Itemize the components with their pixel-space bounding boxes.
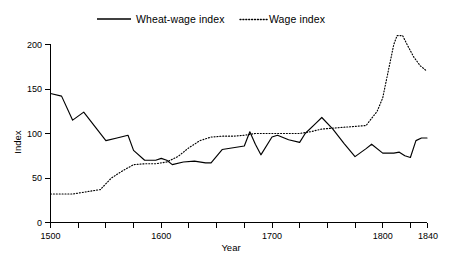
x-tick-label-1500: 1500 — [40, 231, 60, 241]
chart-background — [0, 0, 458, 257]
x-tick-label-1700: 1700 — [262, 231, 282, 241]
x-tick-label-1600: 1600 — [151, 231, 171, 241]
wheat-wage-index-line-chart: Wheat-wage index Wage index 200 150 100 … — [0, 0, 458, 257]
y-tick-label-200: 200 — [27, 40, 42, 50]
y-tick-label-50: 50 — [32, 173, 42, 183]
x-axis-title: Year — [221, 242, 240, 253]
y-tick-label-150: 150 — [27, 84, 42, 94]
x-tick-label-1800: 1800 — [373, 231, 393, 241]
y-tick-label-0: 0 — [37, 218, 42, 228]
y-tick-label-100: 100 — [27, 129, 42, 139]
x-tick-label-1840: 1840 — [418, 231, 438, 241]
legend-label-wheat-wage-index: Wheat-wage index — [136, 13, 225, 25]
legend-label-wage-index: Wage index — [269, 13, 326, 25]
y-axis-title: Index — [12, 130, 23, 153]
